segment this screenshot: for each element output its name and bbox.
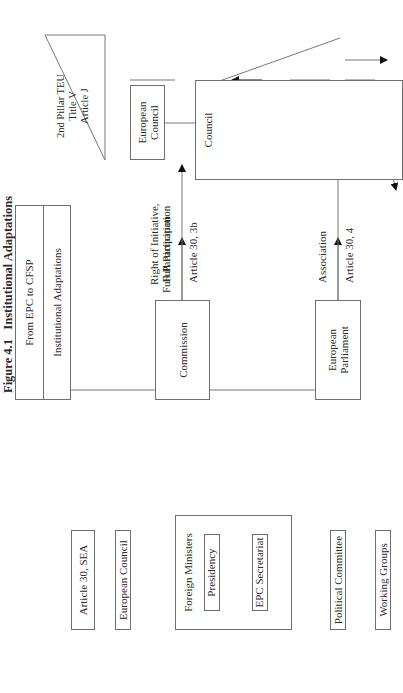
commission-box: Commission [155,300,210,400]
header-box: From EPC to CFSP Institutional Adaptatio… [15,205,71,400]
pillar-line1: 2nd Pillar TEU [55,74,67,138]
roi-line2: Full Participation [160,203,172,285]
ep-line1: European [326,329,338,371]
epc-secretariat-box: EPC Secretariat [252,534,268,611]
article-30-3b-label: Article 30, 3b [187,222,199,283]
council-label: Council [202,89,214,171]
foreign-ministers-label: Foreign Ministers [182,524,194,621]
foreign-ministers-box: Foreign Ministers Presidency EPC Secreta… [175,515,292,630]
roi-line1: Right of Initiative, [148,203,160,285]
pillar-line2: Title V [67,74,79,138]
figure-title-text: Institutional Adaptations [1,196,15,330]
left-association-label: Association [316,231,328,283]
article-30-sea-box: Article 30, SEA [71,530,95,630]
left-european-council-box: European Council [115,530,131,630]
european-parliament-box: European Parliament [315,300,361,400]
figure-number: Figure 4.1 [1,339,15,393]
council-box: Council [195,80,403,180]
working-groups-box: Working Groups [375,530,391,630]
pillar-triangle-text: 2nd Pillar TEU Title V Article J [55,74,91,138]
figure-title: Figure 4.1 Institutional Adaptations [1,196,16,393]
right-of-initiative-label: Right of Initiative, Full Participation [148,203,172,285]
header-line2: Institutional Adaptations [44,206,71,399]
fm-presidency-box: Presidency [204,534,220,611]
header-line1: From EPC to CFSP [16,206,44,399]
article-30-4-label: Article 30, 4 [343,228,355,283]
left-political-committee-box: Political Committee [330,530,346,630]
right-european-council-box: European Council [130,85,165,160]
ep-line2: Parliament [338,326,350,374]
pillar-line3: Article J [79,74,91,138]
rotated-diagram: Figure 4.1 Institutional Adaptations Fro… [0,0,403,693]
